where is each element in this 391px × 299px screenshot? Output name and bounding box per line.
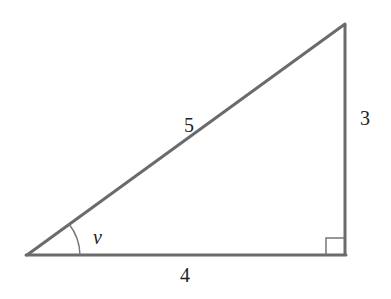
triangle-diagram: 5 3 4 v (0, 0, 391, 299)
vertical-side-label: 3 (360, 107, 370, 129)
hypotenuse-label: 5 (184, 114, 194, 136)
triangle (26, 24, 346, 256)
angle-arc (69, 224, 80, 255)
hypotenuse-side (27, 24, 345, 255)
angle-label: v (93, 226, 102, 248)
right-angle-marker (326, 238, 344, 255)
base-label: 4 (180, 264, 190, 286)
